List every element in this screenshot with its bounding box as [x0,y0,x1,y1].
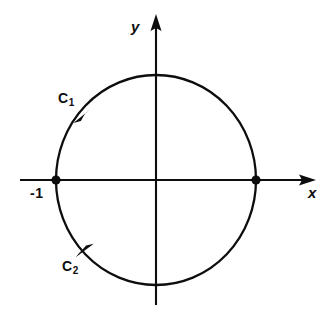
curve-label-c2-text: C [62,258,72,274]
x-axis-label: x [308,185,316,200]
point-marker-one [251,175,260,184]
curve-label-c1-subscript: 1 [68,97,74,108]
curve-label-c2-subscript: 2 [72,265,78,276]
tick-label-minus-one: -1 [30,186,43,200]
curve-label-c1-text: C [58,90,68,106]
y-axis-label: y [131,19,139,34]
point-marker-minus-one [51,175,60,184]
diagram-svg [0,0,329,315]
curve-label-c2: C2 [62,259,78,276]
curve-label-c1: C1 [58,91,74,108]
figure-canvas: y x -1 C1 C2 [0,0,329,315]
